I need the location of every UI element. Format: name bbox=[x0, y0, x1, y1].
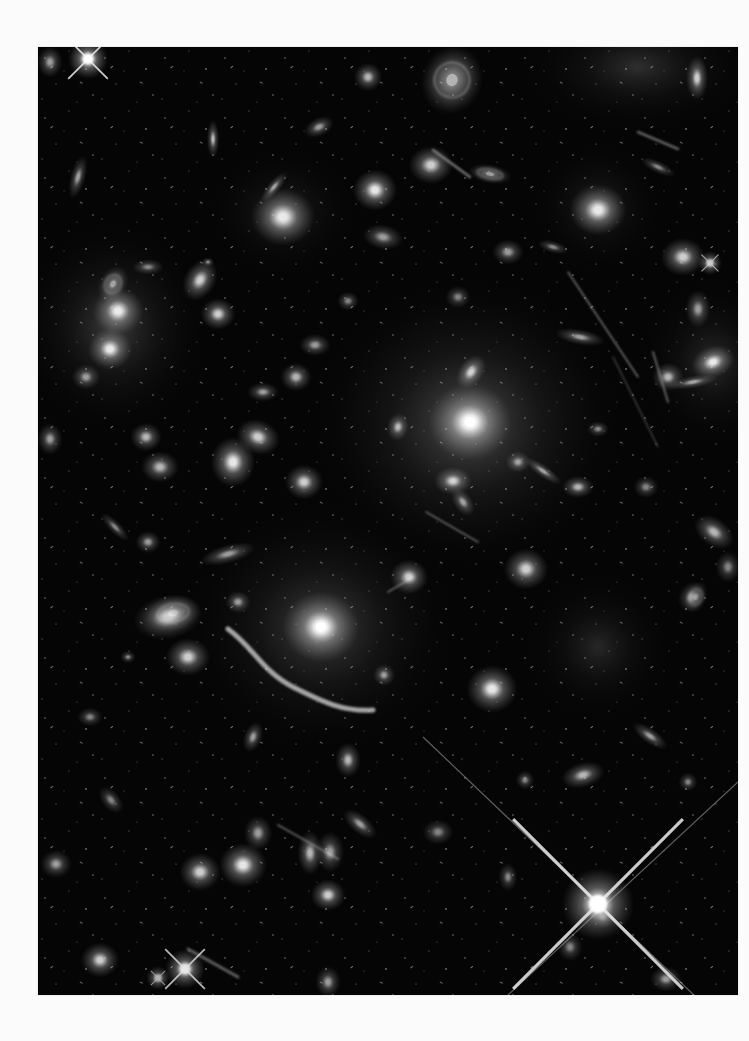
galaxy bbox=[390, 559, 428, 594]
galaxy bbox=[280, 363, 312, 392]
galaxy bbox=[504, 548, 549, 590]
galaxy bbox=[200, 298, 235, 330]
galaxy bbox=[466, 665, 517, 713]
galaxy bbox=[445, 286, 471, 308]
galaxy bbox=[283, 592, 360, 662]
galaxy bbox=[285, 464, 323, 499]
galaxy-cluster-photo bbox=[38, 47, 738, 995]
star bbox=[165, 949, 205, 989]
galaxy bbox=[132, 259, 164, 275]
galaxy bbox=[77, 707, 103, 726]
galaxy bbox=[135, 531, 161, 553]
galaxy bbox=[515, 770, 534, 789]
galaxy bbox=[678, 772, 697, 791]
galaxy bbox=[92, 287, 143, 335]
galaxy bbox=[316, 831, 345, 873]
galaxy bbox=[335, 742, 361, 777]
galaxy bbox=[337, 291, 359, 310]
galaxy bbox=[428, 384, 511, 461]
galaxy bbox=[498, 863, 517, 892]
galaxy bbox=[587, 421, 609, 437]
cluster-halo bbox=[528, 577, 668, 717]
galaxy bbox=[179, 853, 221, 891]
galaxy bbox=[409, 146, 454, 184]
galaxy bbox=[166, 638, 211, 676]
star bbox=[146, 966, 170, 990]
galaxy bbox=[202, 257, 215, 267]
galaxy bbox=[686, 56, 708, 101]
galaxy bbox=[88, 328, 133, 370]
galaxy bbox=[120, 651, 136, 664]
galaxy bbox=[40, 850, 72, 879]
galaxy bbox=[141, 451, 179, 483]
galaxy bbox=[207, 120, 220, 158]
galaxy bbox=[247, 382, 279, 401]
galaxy bbox=[211, 436, 256, 487]
galaxy bbox=[38, 423, 63, 455]
galaxy bbox=[130, 423, 162, 452]
galaxy bbox=[633, 476, 659, 498]
galaxy bbox=[373, 664, 395, 686]
galaxy bbox=[299, 334, 331, 356]
galaxy bbox=[661, 238, 706, 276]
star bbox=[698, 251, 722, 275]
galaxy bbox=[219, 843, 267, 888]
galaxy bbox=[354, 63, 383, 92]
galaxy bbox=[557, 933, 583, 962]
galaxy-cluster-scene bbox=[38, 47, 738, 995]
galaxy bbox=[685, 290, 711, 328]
galaxy bbox=[422, 819, 454, 845]
galaxy bbox=[492, 239, 524, 265]
star bbox=[68, 47, 108, 79]
galaxy bbox=[569, 184, 627, 235]
galaxy bbox=[72, 364, 101, 390]
galaxy bbox=[353, 169, 398, 211]
galaxy bbox=[310, 879, 345, 911]
galaxy bbox=[251, 188, 315, 246]
galaxy bbox=[225, 591, 251, 613]
galaxy bbox=[562, 476, 594, 498]
galaxy bbox=[81, 942, 119, 977]
